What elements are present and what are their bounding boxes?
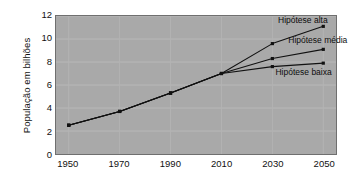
data-point-marker (169, 91, 172, 94)
data-point-marker (271, 42, 274, 45)
data-point-marker (220, 72, 223, 75)
data-point-marker (322, 62, 325, 65)
series-annotation-label: Hipótese alta (278, 16, 328, 25)
data-point-marker (322, 48, 325, 51)
data-point-marker (67, 124, 70, 127)
x-tick-label: 2030 (249, 159, 297, 169)
data-point-marker (271, 57, 274, 60)
series-line (69, 49, 324, 125)
x-tick-label: 1950 (44, 159, 92, 169)
x-tick-label: 2050 (300, 159, 348, 169)
x-tick-label: 1970 (95, 159, 143, 169)
series-annotation-label: Hipótese baixa (275, 68, 331, 77)
x-tick-label: 2010 (198, 159, 246, 169)
series-annotation-label: Hipótese média (288, 36, 347, 45)
x-tick-label: 1990 (146, 159, 194, 169)
data-point-marker (271, 65, 274, 68)
data-point-marker (118, 110, 121, 113)
data-point-marker (322, 25, 325, 28)
population-projection-chart: População em bilhões 024681012 195019701… (0, 0, 352, 186)
